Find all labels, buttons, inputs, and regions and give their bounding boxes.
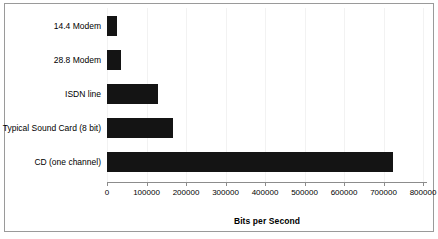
x-tick-label: 800000 [410, 188, 437, 198]
x-tick [186, 182, 187, 186]
bar-row: Typical Sound Card (8 bit) [0, 113, 438, 143]
category-label: 28.8 Modem [54, 55, 101, 65]
x-tick [384, 182, 385, 186]
category-label: ISDN line [65, 89, 101, 99]
bar-row: ISDN line [0, 79, 438, 109]
x-tick [423, 182, 424, 186]
x-tick-label: 200000 [173, 188, 200, 198]
x-tick [305, 182, 306, 186]
bar-isdn-line[interactable] [107, 84, 158, 104]
x-tick-label: 600000 [331, 188, 358, 198]
x-tick [344, 182, 345, 186]
x-tick-label: 500000 [291, 188, 318, 198]
x-axis-title: Bits per Second [107, 216, 427, 226]
x-tick-label: 700000 [370, 188, 397, 198]
bar-typical-sound-card[interactable] [107, 118, 173, 138]
bar-28-8-modem[interactable] [107, 50, 121, 70]
bar-cd-one-channel[interactable] [107, 152, 393, 172]
x-tick-label: 400000 [252, 188, 279, 198]
x-tick [107, 182, 108, 186]
bar-14-4-modem[interactable] [107, 16, 117, 36]
x-tick-label: 0 [105, 188, 109, 198]
category-label: Typical Sound Card (8 bit) [3, 123, 101, 133]
x-tick-label: 100000 [133, 188, 160, 198]
x-tick [265, 182, 266, 186]
chart-figure: 14.4 Modem 28.8 Modem ISDN line Typical … [0, 0, 438, 239]
x-tick [226, 182, 227, 186]
category-label: CD (one channel) [34, 157, 101, 167]
bar-row: 28.8 Modem [0, 45, 438, 75]
x-tick [147, 182, 148, 186]
x-tick-label: 300000 [212, 188, 239, 198]
x-axis-line [107, 182, 427, 183]
bar-row: 14.4 Modem [0, 11, 438, 41]
category-label: 14.4 Modem [54, 21, 101, 31]
plot-area: 14.4 Modem 28.8 Modem ISDN line Typical … [0, 0, 438, 239]
bar-row: CD (one channel) [0, 147, 438, 177]
